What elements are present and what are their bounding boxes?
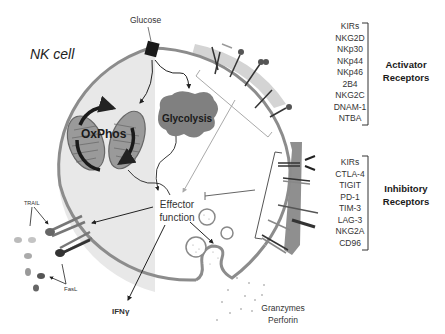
effector-line-2: function <box>155 211 199 224</box>
glycolysis-label: Glycolysis <box>162 113 212 124</box>
activator-item: KIRs <box>325 21 375 33</box>
activator-item: NTBA <box>325 113 375 125</box>
activator-item: NKp30 <box>325 44 375 56</box>
activator-item: NKG2C <box>325 90 375 102</box>
effector-function-label: Effector function <box>155 198 199 224</box>
perforin-label: Perforin <box>255 314 311 326</box>
granzymes-label: Granzymes <box>255 302 311 314</box>
inhibitory-receptors-title: Inhibitory Receptors <box>370 182 442 208</box>
activator-item: 2B4 <box>325 79 375 91</box>
ifng-label: IFNγ <box>112 307 129 316</box>
activator-receptors-title: Activator Receptors <box>370 58 442 84</box>
inhibitory-item: NKG2A <box>325 226 375 238</box>
apoptotic-fragments <box>14 237 45 292</box>
inhibitory-item: CD96 <box>325 238 375 250</box>
granzymes-perforin-label: Granzymes Perforin <box>255 302 311 326</box>
activator-item: NKG2D <box>325 33 375 45</box>
oxphos-label: OxPhos <box>81 127 126 141</box>
activator-receptor-list: KIRs NKG2D NKp30 NKp44 NKp46 2B4 NKG2C D… <box>325 21 375 125</box>
inhibitory-item: PD-1 <box>325 192 375 204</box>
activator-item: NKp44 <box>325 56 375 68</box>
inhibitory-title-line-1: Inhibitory <box>370 182 442 195</box>
inhibitory-item: TIM-3 <box>325 203 375 215</box>
diagram-title: NK cell <box>30 46 74 62</box>
effector-line-1: Effector <box>155 198 199 211</box>
trail-label: TRAIL <box>24 200 40 206</box>
activator-title-line-1: Activator <box>370 58 442 71</box>
inhibitory-receptor-list: KIRs CTLA-4 TIGIT PD-1 TIM-3 LAG-3 NKG2A… <box>325 157 375 249</box>
activator-item: NKp46 <box>325 67 375 79</box>
inhibitory-item: TIGIT <box>325 180 375 192</box>
activator-item: DNAM-1 <box>325 102 375 114</box>
inhibitory-item: KIRs <box>325 157 375 169</box>
inhibitory-item: LAG-3 <box>325 215 375 227</box>
fasl-arrows <box>50 264 66 284</box>
inhibitory-title-line-2: Receptors <box>370 195 442 208</box>
fasl-label: FasL <box>64 286 77 292</box>
activator-title-line-2: Receptors <box>370 71 442 84</box>
inhibitory-item: CTLA-4 <box>325 169 375 181</box>
trail-arrows <box>30 207 48 226</box>
glucose-label: Glucose <box>130 15 161 25</box>
